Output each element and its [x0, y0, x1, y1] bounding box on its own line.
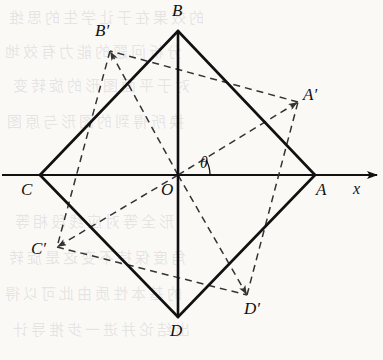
solid-edge	[40, 175, 178, 317]
vertex-label-b-prime: B′	[95, 22, 109, 39]
x-axis-label: x	[353, 180, 360, 198]
vertex-label-c: C	[21, 181, 32, 198]
vertex-label-b: B	[172, 2, 182, 19]
theta-label: θ	[200, 154, 208, 172]
solid-edge	[178, 31, 315, 175]
dashed-edge	[57, 247, 247, 295]
vertex-label-d: D	[170, 322, 182, 339]
vertex-label-a: A	[316, 181, 326, 198]
geometry-figure: 的效果在于让学生的思维分析问题的能力有效地对于平面图形的旋转变换所得到的图形与原…	[0, 0, 383, 360]
vertex-label-a-prime: A′	[303, 86, 317, 103]
origin-ray	[110, 52, 178, 175]
vertex-label-o: O	[161, 181, 173, 198]
solid-edge	[178, 175, 315, 317]
vertex-label-d-prime: D′	[244, 300, 260, 317]
vertex-label-c-prime: C′	[31, 240, 46, 257]
origin-ray	[178, 175, 247, 294]
